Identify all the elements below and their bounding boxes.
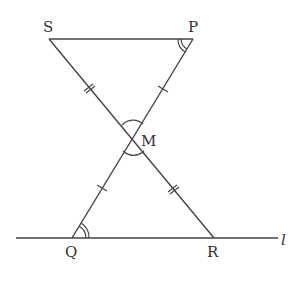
angle-arc-qmr [123, 151, 144, 155]
label-s: S [43, 18, 53, 36]
segment-sr [49, 39, 214, 238]
geometry-diagram: S P M Q R l [0, 0, 302, 288]
single-tick-qm [97, 185, 107, 191]
segment-pq [72, 39, 193, 238]
label-r: R [207, 243, 219, 261]
label-p: P [188, 18, 198, 36]
label-line-l: l [281, 231, 286, 249]
label-m: M [141, 132, 156, 150]
single-tick-pm [158, 86, 168, 92]
angle-arc-smp [122, 120, 143, 125]
label-q: Q [65, 243, 77, 261]
